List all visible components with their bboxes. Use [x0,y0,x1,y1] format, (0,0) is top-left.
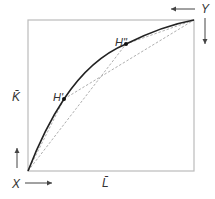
chord-x-to-h2 [28,44,126,171]
chord-x-to-h1 [28,99,64,171]
label-h2: H" [115,36,128,48]
chord-h1-to-y [64,20,194,99]
label-origin-x: X [11,177,21,191]
label-capital-axis: K̄ [12,90,21,104]
label-h1: H' [53,91,64,103]
edgeworth-box-diagram: H' H" K̄ L̄ X Y [0,0,215,199]
label-origin-y: Y [201,2,210,16]
label-labor-axis: L̄ [102,176,109,190]
